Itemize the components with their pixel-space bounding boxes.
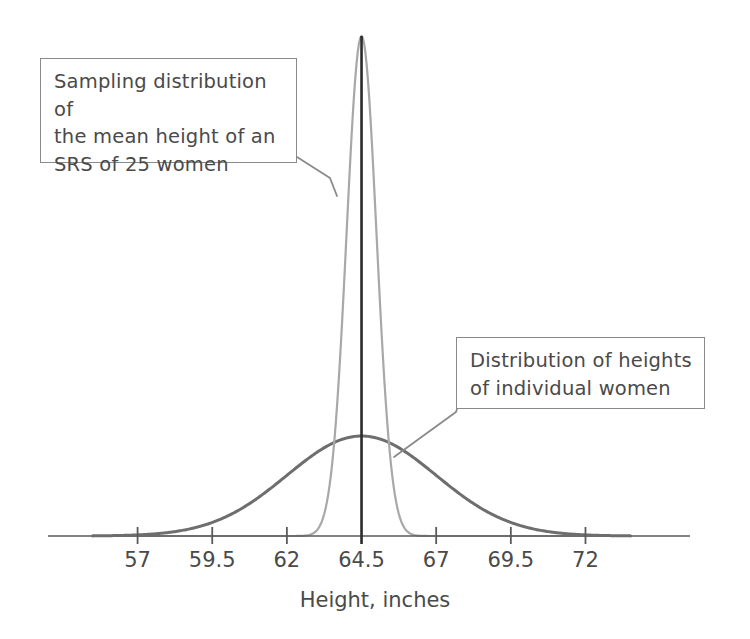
sampling-callout-leader bbox=[297, 157, 337, 196]
x-axis-tick-label-72: 72 bbox=[572, 548, 599, 572]
x-axis-tick-label-57: 57 bbox=[124, 548, 151, 572]
individual-callout-leader bbox=[394, 409, 457, 457]
x-axis-tick-label-69.5: 69.5 bbox=[487, 548, 534, 572]
x-axis-title: Height, inches bbox=[300, 588, 451, 612]
x-axis-tick-label-64.5: 64.5 bbox=[338, 548, 385, 572]
x-axis-tick-label-59.5: 59.5 bbox=[189, 548, 236, 572]
leader-lines-layer bbox=[297, 157, 457, 457]
x-axis-tick-label-62: 62 bbox=[274, 548, 301, 572]
callout-individual-distribution: Distribution of heights of individual wo… bbox=[456, 337, 705, 409]
x-axis-tick-label-67: 67 bbox=[423, 548, 450, 572]
callout-sampling-distribution: Sampling distribution of the mean height… bbox=[40, 58, 297, 163]
